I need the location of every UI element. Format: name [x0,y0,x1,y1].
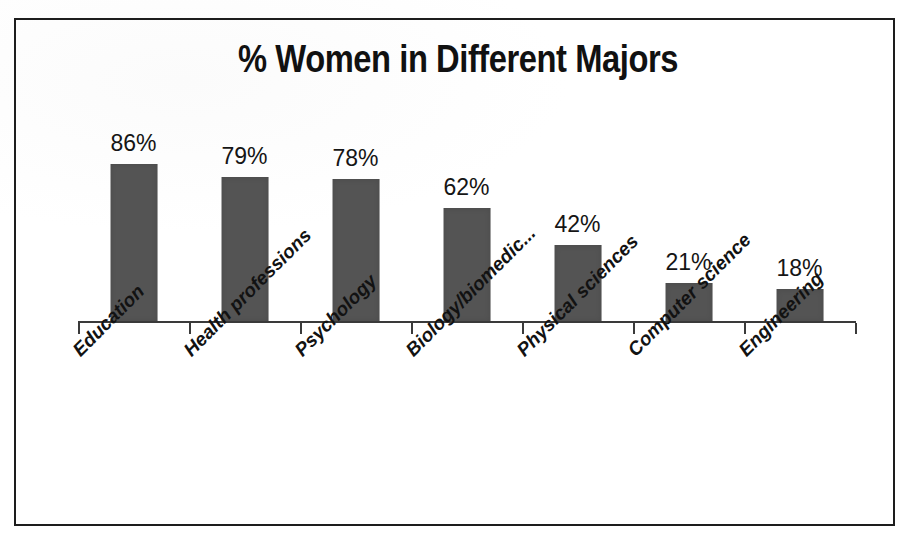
bar-value-label: 42% [554,211,600,238]
chart-page: % Women in Different Majors 86%79%78%62%… [0,0,916,541]
x-axis-tick [633,323,635,334]
bar-value-label: 62% [443,174,489,201]
x-axis-line [78,321,856,323]
x-axis-tick [411,323,413,334]
chart-title: % Women in Different Majors [64,38,852,81]
x-axis-tick [300,323,302,334]
x-axis-tick [78,323,80,334]
x-axis-tick [744,323,746,334]
bar-value-label: 79% [221,143,267,170]
bar-value-label: 78% [332,145,378,172]
x-axis-tick [522,323,524,334]
x-axis-tick [189,323,191,334]
bar-value-label: 86% [110,130,156,157]
x-axis-tick [855,323,857,334]
